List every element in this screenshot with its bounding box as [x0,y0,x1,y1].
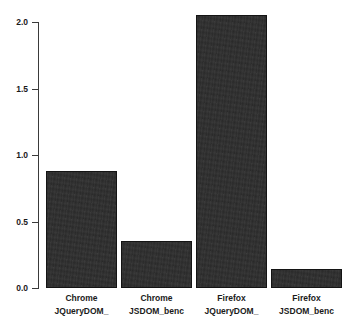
x-axis-label: FirefoxJSDOM_benc [271,292,342,317]
x-axis-label-browser: Chrome [46,292,117,305]
y-axis-tick-label: 0.5 [2,217,28,227]
y-axis-tick [32,222,38,223]
x-axis-label-browser: Firefox [196,292,267,305]
y-axis-tick [32,155,38,156]
x-axis-label-browser: Firefox [271,292,342,305]
x-axis-label-benchmark: JQueryDOM_ [196,305,267,318]
y-axis-tick-label: 1.5 [2,84,28,94]
x-axis-label-browser: Chrome [121,292,192,305]
y-axis-line [38,22,39,289]
plot-area: 0.00.51.01.52.0 ChromeJQueryDOM_ChromeJS… [0,0,343,327]
bar [46,171,117,288]
y-axis-tick-label: 0.0 [2,283,28,293]
bar [196,15,267,288]
x-axis-label: FirefoxJQueryDOM_ [196,292,267,317]
y-axis-tick [32,89,38,90]
x-axis-label-benchmark: JSDOM_benc [271,305,342,318]
bar-chart: in milliseconds 0.00.51.01.52.0 ChromeJQ… [0,0,343,327]
bar [121,241,192,288]
y-axis-tick-label: 2.0 [2,17,28,27]
y-axis-tick-label: 1.0 [2,150,28,160]
x-axis-label-benchmark: JQueryDOM_ [46,305,117,318]
x-axis-label: ChromeJSDOM_benc [121,292,192,317]
x-axis-label-benchmark: JSDOM_benc [121,305,192,318]
y-axis-tick [32,288,38,289]
x-axis-label: ChromeJQueryDOM_ [46,292,117,317]
bar [271,269,342,288]
y-axis-tick [32,22,38,23]
